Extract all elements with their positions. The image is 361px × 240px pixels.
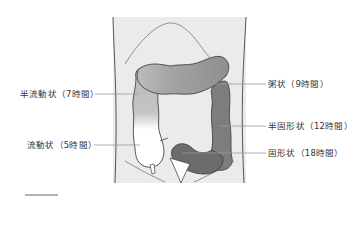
label-solid: 固形状（18時間） bbox=[268, 148, 344, 158]
label-semi-fluid: 半流動状（7時間） bbox=[20, 89, 99, 99]
label-semi-solid: 半固形状（12時間） bbox=[268, 121, 353, 131]
label-mushy: 粥状（9時間） bbox=[268, 79, 329, 89]
label-fluid: 流動状（5時間） bbox=[27, 140, 97, 150]
